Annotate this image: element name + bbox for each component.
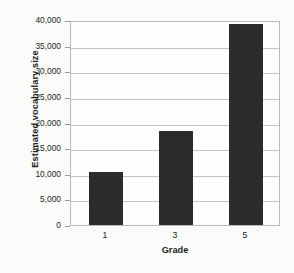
y-tick-label: 20,000: [35, 118, 61, 128]
x-tick-label: 3: [155, 230, 195, 240]
y-tick-label: 10,000: [35, 169, 61, 179]
bar: [159, 131, 193, 225]
y-tick-label: 40,000: [35, 15, 61, 25]
x-tick-label: 5: [225, 230, 265, 240]
plot-area: [70, 21, 280, 226]
x-axis-title: Grade: [70, 245, 280, 255]
y-tick-label: 30,000: [35, 66, 61, 76]
y-tick-mark: [65, 226, 70, 227]
y-tick-label: 25,000: [35, 92, 61, 102]
y-tick-label: 15,000: [35, 143, 61, 153]
bar-chart-figure: Estimated vocabulary size 05,00010,00015…: [0, 0, 294, 273]
y-tick-label: 35,000: [35, 41, 61, 51]
y-tick-label: 5,000: [40, 194, 61, 204]
bar: [89, 172, 123, 225]
bar: [229, 24, 263, 225]
y-tick-label: 0: [56, 220, 61, 230]
y-axis-title: Estimated vocabulary size: [30, 4, 40, 214]
x-tick-label: 1: [85, 230, 125, 240]
